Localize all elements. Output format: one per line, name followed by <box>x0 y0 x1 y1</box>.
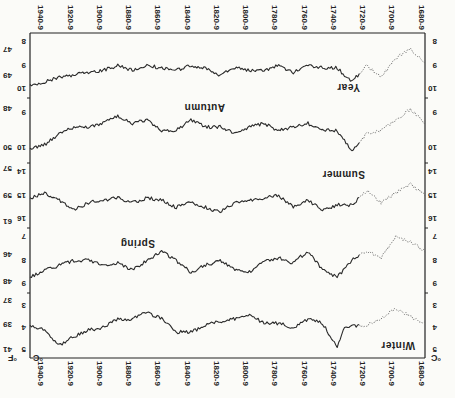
celsius-tick-right: 10 <box>17 84 26 93</box>
x-tick-label-top: 1780-9 <box>270 361 279 386</box>
panels: 334455373941Winter7788994648Spring141415… <box>3 37 437 354</box>
summer-series-early <box>359 183 425 204</box>
celsius-tick-left: 8 <box>432 256 437 265</box>
celsius-tick-left: 14 <box>428 167 437 176</box>
x-tick-label-bottom: 1760-9 <box>300 5 309 30</box>
x-axis-top-ticks: 1680-91700-91720-91740-91760-91780-91800… <box>36 361 425 386</box>
x-tick-label-top: 1700-9 <box>387 361 396 386</box>
fahrenheit-tick: 46 <box>3 250 12 259</box>
x-tick-label-top: 1760-9 <box>300 361 309 386</box>
x-tick-label-bottom: 1700-9 <box>387 5 396 30</box>
autumn-series-early <box>359 108 425 142</box>
plot-frame <box>30 33 425 358</box>
fahrenheit-tick: 57 <box>3 164 12 173</box>
winter-series <box>30 312 359 348</box>
fahrenheit-tick: 47 <box>3 45 12 54</box>
x-tick-label-top: 1940-9 <box>36 361 45 386</box>
celsius-tick-right: 8 <box>21 37 26 46</box>
panel-label-summer: Summer <box>322 169 365 180</box>
panel-label-spring: Spring <box>120 238 155 249</box>
celsius-tick-left: 3 <box>432 301 437 310</box>
panel-spring: 7788994648Spring <box>3 232 437 293</box>
celsius-tick-left: 9 <box>432 61 437 70</box>
year-series-early <box>359 48 425 77</box>
unit-fahrenheit: °F <box>7 353 17 363</box>
celsius-tick-right: 10 <box>17 143 26 152</box>
panel-autumn: 9910104850Autumn <box>3 102 437 163</box>
celsius-tick-left: 10 <box>428 143 437 152</box>
unit-celsius-right: °C <box>32 353 43 363</box>
celsius-tick-right: 9 <box>21 279 26 288</box>
x-tick-label-top: 1840-9 <box>183 361 192 386</box>
winter-series-early <box>359 308 425 326</box>
celsius-tick-right: 5 <box>21 345 26 354</box>
celsius-tick-left: 10 <box>428 84 437 93</box>
fahrenheit-tick: 39 <box>3 320 12 329</box>
celsius-tick-left: 4 <box>432 323 437 332</box>
panel-label-autumn: Autumn <box>184 102 225 113</box>
fahrenheit-tick: 48 <box>3 104 12 113</box>
summer-series <box>30 192 359 213</box>
celsius-tick-right: 9 <box>21 61 26 70</box>
fahrenheit-tick: 59 <box>3 191 12 200</box>
celsius-tick-right: 16 <box>17 214 26 223</box>
celsius-tick-right: 4 <box>21 323 26 332</box>
panel-year: 889910104749Year <box>3 37 437 98</box>
fahrenheit-tick: 61 <box>3 217 12 226</box>
celsius-tick-right: 8 <box>21 256 26 265</box>
x-tick-label-top: 1860-9 <box>153 361 162 386</box>
x-tick-label-top: 1720-9 <box>358 361 367 386</box>
celsius-tick-right: 9 <box>21 108 26 117</box>
celsius-tick-left: 9 <box>432 108 437 117</box>
spring-series <box>30 251 359 278</box>
x-tick-label-top: 1800-9 <box>241 361 250 386</box>
unit-celsius-left: °C <box>430 353 441 363</box>
fahrenheit-tick: 50 <box>3 143 12 152</box>
celsius-tick-right: 3 <box>21 301 26 310</box>
x-tick-label-top: 1880-9 <box>124 361 133 386</box>
x-tick-label-top: 1820-9 <box>212 361 221 386</box>
celsius-tick-left: 16 <box>428 214 437 223</box>
celsius-tick-left: 8 <box>432 37 437 46</box>
x-tick-label-bottom: 1820-9 <box>212 5 221 30</box>
x-tick-label-bottom: 1740-9 <box>329 5 338 30</box>
x-tick-label-bottom: 1880-9 <box>124 5 133 30</box>
panel-summer: 141415151616575961Summer <box>3 164 437 228</box>
x-tick-label-bottom: 1800-9 <box>241 5 250 30</box>
x-tick-label-bottom: 1780-9 <box>270 5 279 30</box>
celsius-tick-right: 15 <box>17 191 26 200</box>
climate-figure: 1680-91700-91720-91740-91760-91780-91800… <box>0 0 455 398</box>
fahrenheit-tick: 37 <box>3 296 12 305</box>
x-tick-label-top: 1680-9 <box>417 361 426 386</box>
celsius-tick-left: 9 <box>432 279 437 288</box>
panel-winter: 334455373941Winter <box>3 296 437 354</box>
x-tick-label-bottom: 1940-9 <box>36 5 45 30</box>
celsius-tick-right: 7 <box>21 232 26 241</box>
temperature-chart: 1680-91700-91720-91740-91760-91780-91800… <box>0 0 455 398</box>
x-tick-label-bottom: 1900-9 <box>95 5 104 30</box>
x-tick-label-bottom: 1720-9 <box>358 5 367 30</box>
x-tick-label-bottom: 1680-9 <box>417 5 426 30</box>
x-tick-label-bottom: 1860-9 <box>153 5 162 30</box>
celsius-tick-left: 15 <box>428 191 437 200</box>
fahrenheit-tick: 48 <box>3 277 12 286</box>
panel-label-year: Year <box>337 82 360 93</box>
panel-label-winter: Winter <box>381 340 415 351</box>
x-tick-label-bottom: 1840-9 <box>183 5 192 30</box>
celsius-tick-right: 14 <box>17 167 26 176</box>
fahrenheit-tick: 49 <box>3 71 12 80</box>
x-tick-label-top: 1900-9 <box>95 361 104 386</box>
x-tick-label-top: 1920-9 <box>66 361 75 386</box>
autumn-series <box>30 115 359 151</box>
celsius-tick-left: 7 <box>432 232 437 241</box>
x-tick-label-bottom: 1920-9 <box>66 5 75 30</box>
x-tick-label-top: 1740-9 <box>329 361 338 386</box>
spring-series-early <box>359 236 425 260</box>
year-series <box>30 64 359 86</box>
x-axis-bottom-ticks: 1680-91700-91720-91740-91760-91780-91800… <box>36 5 425 30</box>
